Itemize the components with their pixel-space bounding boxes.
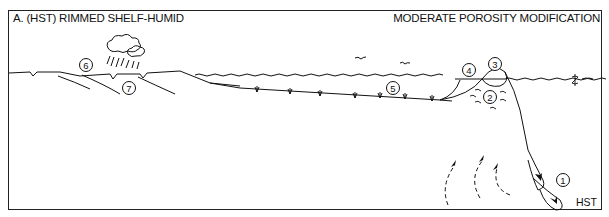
bed-line [58, 76, 90, 89]
callout-label: 5 [390, 83, 395, 94]
upwelling-arrows [445, 160, 510, 205]
reef-crest [482, 68, 507, 86]
callout-label: 1 [560, 175, 565, 186]
sea-surface-waves [195, 74, 443, 76]
arrowhead [451, 160, 456, 167]
slope-lobe [528, 150, 544, 190]
downslope-arrow [535, 173, 542, 181]
bed-line [138, 77, 175, 94]
rain-cloud [107, 34, 141, 52]
diagram-canvas: 1 2 3 4 5 6 7 [0, 0, 609, 217]
back-reef-buildup [440, 80, 460, 100]
arrowhead [479, 155, 484, 162]
sea-surface-waves [505, 78, 606, 80]
reef-front-slope [505, 72, 528, 150]
bird-icon [400, 62, 410, 64]
callout-label: 4 [466, 65, 471, 76]
seagrass-tufts [255, 86, 434, 101]
rain-streaks [107, 56, 139, 69]
callout-label: 2 [487, 92, 492, 103]
bird-icon [355, 57, 366, 59]
sea-level-marker [572, 74, 578, 86]
callout-label: 7 [126, 83, 131, 94]
callout-label: 6 [83, 60, 88, 71]
shelf-floor [210, 83, 452, 101]
arrowhead [493, 163, 498, 170]
callout-label: 3 [492, 59, 497, 70]
